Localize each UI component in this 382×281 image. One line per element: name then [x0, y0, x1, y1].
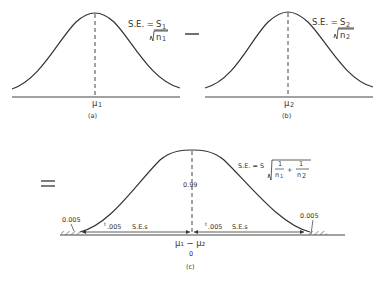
svg-text:S.E. =: S.E. = — [312, 17, 338, 27]
svg-text:n: n — [156, 32, 161, 42]
svg-text:.005: .005 — [208, 223, 222, 231]
center-probability: 0.99 — [183, 181, 197, 189]
svg-text:n: n — [297, 171, 301, 179]
svg-text:.005: .005 — [107, 223, 121, 231]
svg-text:2: 2 — [302, 172, 306, 180]
equals-operator — [41, 181, 55, 186]
left-interval-label: t .005 S.E.s — [104, 221, 148, 231]
caption-a: (a) — [88, 112, 97, 120]
svg-text:1: 1 — [278, 160, 282, 168]
svg-text:t: t — [205, 221, 207, 227]
right-tail-probability: 0.005 — [300, 212, 319, 220]
right-interval-label: t .005 S.E.s — [205, 221, 248, 231]
mean-difference-label: μ₁ − μ₂ — [175, 238, 205, 248]
svg-text:2: 2 — [346, 33, 350, 41]
svg-text:S: S — [340, 17, 345, 27]
svg-text:1: 1 — [98, 101, 102, 109]
svg-text:1: 1 — [280, 173, 283, 179]
panel-b: S.E. = S 2 n 2 μ 2 (b) — [205, 12, 373, 120]
svg-text:S.E. = S: S.E. = S — [238, 162, 264, 170]
svg-text:+: + — [287, 166, 292, 174]
svg-text:2: 2 — [290, 101, 294, 109]
svg-text:1: 1 — [299, 160, 303, 168]
svg-text:S: S — [156, 19, 161, 29]
normal-curve-c — [80, 150, 310, 232]
left-tail-region — [61, 231, 80, 235]
se-formula-c: S.E. = S 1 n 1 + 1 n 2 — [238, 160, 311, 180]
svg-text:S.E.s: S.E.s — [232, 223, 248, 231]
normal-curve-a — [12, 13, 180, 89]
svg-text:S.E.s: S.E.s — [132, 223, 148, 231]
mean-difference-value: 0 — [189, 250, 193, 258]
panel-c: S.E. = S 1 n 1 + 1 n 2 0.99 0.005 0.005 … — [60, 150, 345, 271]
svg-text:S.E. =: S.E. = — [128, 19, 154, 29]
svg-text:n: n — [340, 30, 345, 40]
svg-text:t: t — [104, 221, 106, 227]
se-formula-b: S.E. = S 2 n 2 — [312, 17, 354, 41]
caption-b: (b) — [282, 112, 291, 120]
svg-text:n: n — [275, 171, 279, 179]
panel-a: S.E. = S 1 n 1 μ 1 (a) — [12, 13, 180, 120]
left-tail-probability: 0.005 — [62, 216, 81, 224]
svg-text:1: 1 — [162, 35, 166, 43]
se-formula-a: S.E. = S 1 n 1 — [128, 19, 168, 43]
sampling-distribution-diagram: S.E. = S 1 n 1 μ 1 (a) S.E. = S 2 n 2 μ … — [0, 0, 382, 281]
caption-c: (c) — [186, 263, 195, 271]
